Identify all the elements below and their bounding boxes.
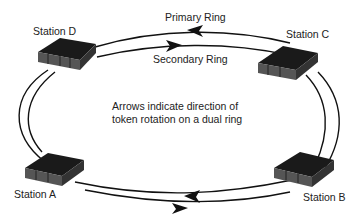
primary-arrow-left-icon: [187, 25, 203, 37]
token-rotation-note: Arrows indicate direction of token rotat…: [112, 100, 242, 126]
station-d-device: [38, 38, 96, 70]
note-line-2: token rotation on a dual ring: [112, 113, 242, 126]
station-b-label: Station B: [303, 191, 346, 203]
station-a-device: [25, 153, 84, 186]
primary-ring-label: Primary Ring: [165, 11, 226, 23]
note-line-1: Arrows indicate direction of: [112, 100, 242, 113]
station-a-label: Station A: [14, 188, 56, 200]
station-d-label: Station D: [33, 25, 76, 37]
station-c-label: Station C: [286, 28, 329, 40]
secondary-ring-label: Secondary Ring: [153, 53, 228, 65]
secondary-arrow-right-icon: [172, 203, 188, 214]
